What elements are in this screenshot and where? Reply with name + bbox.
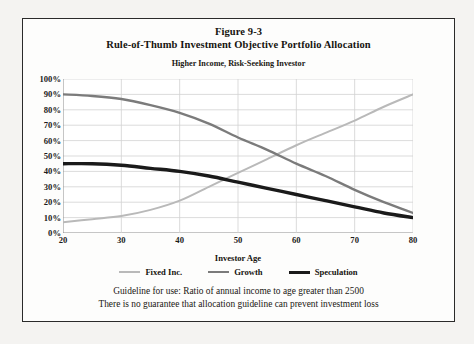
x-tick-20: 20 xyxy=(48,235,78,245)
title-block: Figure 9-3 Rule-of-Thumb Investment Obje… xyxy=(23,25,454,69)
footer-line-2: There is no guarantee that allocation gu… xyxy=(23,298,454,311)
y-tick-60: 60% xyxy=(21,136,61,146)
y-tick-30: 30% xyxy=(21,182,61,192)
y-tick-10: 10% xyxy=(21,213,61,223)
legend-swatch-icon xyxy=(119,271,140,273)
footer-line-1: Guideline for use: Ratio of annual incom… xyxy=(23,285,454,298)
y-tick-100: 100% xyxy=(21,74,61,84)
x-axis-title: Investor Age xyxy=(63,253,413,263)
figure-frame: Figure 9-3 Rule-of-Thumb Investment Obje… xyxy=(22,18,455,322)
y-tick-90: 90% xyxy=(21,89,61,99)
figure-number: Figure 9-3 xyxy=(23,25,454,38)
legend-item-fixed-inc: Fixed Inc. xyxy=(119,267,182,277)
chart-plot-area: 0%10%20%30%40%50%60%70%80%90%100% 203040… xyxy=(63,79,413,233)
y-tick-50: 50% xyxy=(21,151,61,161)
chart-legend: Fixed Inc.GrowthSpeculation xyxy=(23,267,454,277)
legend-item-growth: Growth xyxy=(208,267,263,277)
y-tick-20: 20% xyxy=(21,197,61,207)
x-tick-50: 50 xyxy=(223,235,253,245)
y-tick-80: 80% xyxy=(21,105,61,115)
figure-subtitle: Higher Income, Risk-Seeking Investor xyxy=(23,58,454,69)
legend-label: Speculation xyxy=(315,267,358,277)
legend-swatch-icon xyxy=(208,271,229,273)
figure-title: Rule-of-Thumb Investment Objective Portf… xyxy=(23,38,454,51)
footer-note: Guideline for use: Ratio of annual incom… xyxy=(23,285,454,311)
legend-item-speculation: Speculation xyxy=(289,267,358,277)
y-tick-40: 40% xyxy=(21,166,61,176)
x-tick-70: 70 xyxy=(340,235,370,245)
x-tick-40: 40 xyxy=(165,235,195,245)
x-tick-80: 80 xyxy=(398,235,428,245)
legend-swatch-icon xyxy=(289,271,310,274)
x-tick-60: 60 xyxy=(281,235,311,245)
chart-svg xyxy=(63,79,413,233)
x-tick-30: 30 xyxy=(106,235,136,245)
page-background: Figure 9-3 Rule-of-Thumb Investment Obje… xyxy=(0,0,474,344)
legend-label: Growth xyxy=(234,267,263,277)
y-tick-70: 70% xyxy=(21,120,61,130)
legend-label: Fixed Inc. xyxy=(145,267,182,277)
